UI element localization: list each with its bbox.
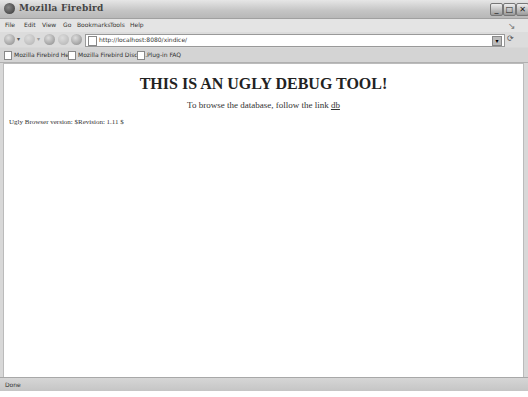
firebird-logo-icon (4, 3, 15, 14)
forward-dropdown-icon[interactable]: ▾ (37, 35, 40, 42)
back-dropdown-icon[interactable]: ▾ (17, 35, 20, 42)
bookmark-firebird-help[interactable]: Mozilla Firebird Help (4, 51, 75, 58)
forward-icon[interactable] (24, 34, 35, 45)
window-title: Mozilla Firebird (19, 3, 104, 13)
bookmark-label: Plug-in FAQ (147, 51, 181, 58)
db-link[interactable]: db (331, 100, 340, 110)
bookmark-page-icon (137, 51, 145, 60)
menu-view[interactable]: View (42, 21, 56, 28)
page-heading: THIS IS AN UGLY DEBUG TOOL! (4, 75, 523, 93)
home-icon[interactable] (71, 34, 82, 45)
bookmark-label: Mozilla Firebird Help (14, 51, 75, 58)
menu-go[interactable]: Go (63, 21, 71, 28)
minimize-button[interactable]: _ (490, 3, 503, 16)
url-dropdown-icon[interactable]: ▾ (492, 36, 502, 46)
bookmark-page-icon (4, 51, 12, 60)
stop-icon[interactable] (58, 34, 69, 45)
page-content: THIS IS AN UGLY DEBUG TOOL! To browse th… (3, 63, 524, 378)
status-text: Done (5, 381, 21, 388)
menu-bookmarks[interactable]: Bookmarks (77, 21, 111, 28)
desktop-edge (0, 391, 528, 397)
browser-window: Mozilla Firebird _ □ ✕ File Edit View Go… (0, 0, 528, 397)
page-icon (88, 36, 97, 46)
url-input[interactable]: http://localhost:8080/xindice/ (99, 36, 187, 43)
maximize-button[interactable]: □ (503, 3, 516, 16)
menu-bar: File Edit View Go Bookmarks Tools Help (0, 19, 528, 32)
go-icon[interactable]: ⟳ (507, 34, 517, 45)
browse-text: To browse the database, follow the link … (4, 100, 523, 110)
menu-help[interactable]: Help (130, 21, 144, 28)
menu-tools[interactable]: Tools (110, 21, 125, 28)
menu-edit[interactable]: Edit (24, 21, 36, 28)
status-bar: Done (0, 377, 528, 392)
close-button[interactable]: ✕ (516, 3, 528, 16)
throbber-icon: ↘ (508, 21, 518, 31)
reload-icon[interactable] (44, 34, 55, 45)
bookmark-plugin-faq[interactable]: Plug-in FAQ (137, 51, 181, 58)
back-icon[interactable] (4, 34, 15, 45)
browse-label: To browse the database, follow the link (187, 100, 331, 110)
bookmark-firebird-discussion[interactable]: Mozilla Firebird Discu... (68, 51, 147, 58)
title-bar[interactable]: Mozilla Firebird _ □ ✕ (0, 0, 528, 19)
url-bar[interactable]: http://localhost:8080/xindice/ ▾ (85, 34, 505, 47)
menu-file[interactable]: File (5, 21, 15, 28)
bookmark-page-icon (68, 51, 76, 60)
bookmarks-toolbar: Mozilla Firebird Help Mozilla Firebird D… (0, 48, 528, 63)
version-text: Ugly Browser version: $Revision: 1.11 $ (9, 118, 124, 126)
